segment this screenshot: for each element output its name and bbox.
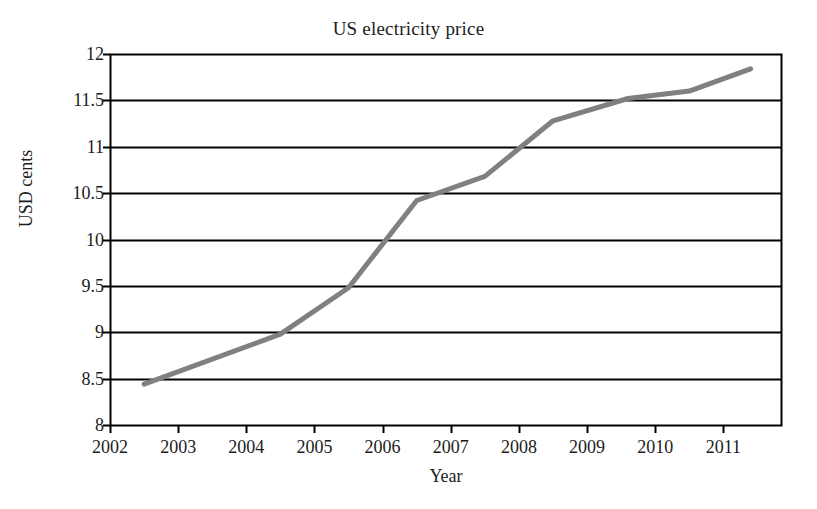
y-axis-ticks — [103, 55, 110, 426]
plot-area — [0, 0, 817, 509]
chart-figure: US electricity price USD cents Year 88.5… — [0, 0, 817, 509]
data-line-us-electricity-price — [144, 69, 751, 384]
gridlines — [110, 101, 782, 380]
